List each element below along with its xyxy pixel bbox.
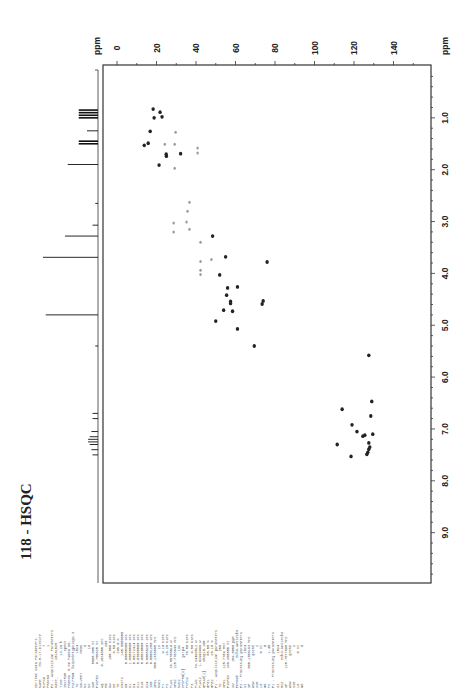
cross-peak <box>349 455 352 459</box>
cross-peak <box>367 441 370 445</box>
cross-peak <box>151 107 154 111</box>
cross-peak <box>261 299 264 303</box>
cross-peak <box>173 167 175 170</box>
y-tick-label: 1.0 <box>440 112 450 124</box>
parameter-column: F1 - Acquisition parametersTD 256SFO1 12… <box>214 630 271 688</box>
cross-peak <box>363 433 366 437</box>
cross-peak <box>224 255 227 259</box>
axis-labels: 020406080100120140ppmppm1.02.03.04.05.06… <box>92 37 450 539</box>
cross-peak <box>158 110 161 114</box>
cross-peak <box>369 414 372 418</box>
y-tick-label: 3.0 <box>440 215 450 227</box>
parameter-column: F1 - Processing parametersSI 1024MC2 ech… <box>271 630 304 688</box>
x-axis-unit-label-left: ppm <box>92 37 102 55</box>
plot-frame <box>103 65 431 583</box>
x-tick-label: 140 <box>389 41 399 55</box>
parameter-column: SWH 5000.000 HzFIDRES 9.765625 HzAQ 0.10… <box>91 630 152 688</box>
cross-peak <box>199 269 201 272</box>
x-tick-label: 0 <box>112 45 122 50</box>
axis-ticks <box>117 61 435 574</box>
cross-peak <box>236 327 239 331</box>
plot-border <box>103 65 431 583</box>
cross-peak <box>218 273 221 277</box>
y-tick-label: 7.0 <box>440 423 450 435</box>
x-tick-label: 100 <box>310 41 320 55</box>
cross-peak <box>199 241 201 244</box>
x-tick-label: 80 <box>270 43 280 53</box>
parameter-column: SFO1 500.1330885 MHzNUC1 1HP1 9.10 usecP… <box>153 630 214 688</box>
cross-peak <box>188 201 190 204</box>
cross-peak <box>173 143 175 146</box>
cross-peak <box>211 234 214 238</box>
x-axis-unit-label-right: ppm <box>440 37 450 55</box>
y-tick-label: 6.0 <box>440 371 450 383</box>
cross-peak <box>172 222 174 225</box>
cross-peak <box>265 260 268 264</box>
cross-peak <box>188 228 190 231</box>
x-tick-label: 20 <box>152 43 162 53</box>
y-tick-label: 2.0 <box>440 164 450 176</box>
y-tick-label: 9.0 <box>440 526 450 538</box>
parameter-line: GB 0 <box>300 630 304 688</box>
cross-peak <box>165 154 168 158</box>
cross-peak <box>225 293 228 297</box>
cross-peak <box>231 309 234 313</box>
cross-peak <box>172 230 174 233</box>
x-tick-label: 60 <box>231 43 241 53</box>
cross-peak <box>157 163 160 167</box>
cross-peak <box>199 273 201 276</box>
cross-peak <box>222 308 225 312</box>
y-tick-label: 8.0 <box>440 475 450 487</box>
cross-peak <box>143 143 146 147</box>
cross-peak <box>350 423 353 427</box>
cross-peak <box>196 152 198 155</box>
cross-peak <box>236 285 239 289</box>
cross-peak <box>185 221 187 224</box>
cross-peak <box>186 210 188 213</box>
cross-peak <box>147 141 150 145</box>
cross-peak <box>152 116 155 120</box>
cross-peak <box>179 152 182 156</box>
cross-peak <box>199 260 201 263</box>
parameter-column: Current Data ParametersNAME MS-5-17-mixt… <box>34 630 91 688</box>
cross-peak <box>214 319 217 323</box>
y-tick-label: 5.0 <box>440 319 450 331</box>
hsqc-spectrum-chart: 020406080100120140ppmppm1.02.03.04.05.06… <box>0 0 472 697</box>
x-tick-label: 40 <box>191 43 201 53</box>
y-tick-label: 4.0 <box>440 267 450 279</box>
x-tick-label: 120 <box>349 41 359 55</box>
cross-peak <box>229 302 232 306</box>
spectrum-title: 118 - HSQC <box>18 483 35 560</box>
cross-peak <box>210 258 212 261</box>
cross-peak <box>226 286 229 290</box>
cross-peak <box>370 400 373 404</box>
cross-peaks <box>143 107 375 458</box>
cross-peak <box>196 146 198 149</box>
1h-projection-spectrum <box>43 70 98 583</box>
cross-peak <box>174 131 176 134</box>
cross-peak <box>148 129 151 133</box>
cross-peak <box>365 452 368 456</box>
cross-peak <box>367 353 370 357</box>
cross-peak <box>355 430 358 434</box>
cross-peak <box>253 344 256 348</box>
cross-peak <box>160 115 163 119</box>
cross-peak <box>336 443 339 447</box>
cross-peak <box>371 432 374 436</box>
cross-peak <box>340 407 343 411</box>
acquisition-parameters-block: Current Data ParametersNAME MS-5-17-mixt… <box>34 630 304 688</box>
cross-peak <box>164 143 166 146</box>
